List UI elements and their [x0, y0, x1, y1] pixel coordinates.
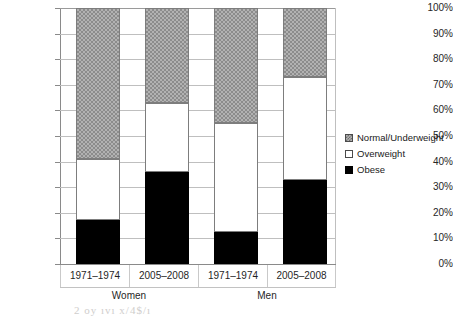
x-category-label: 2005–2008 [267, 265, 336, 287]
x-group-label-women: Women [60, 287, 198, 305]
bar-segment-obese[interactable] [283, 180, 327, 264]
y-tick-label: 10% [401, 233, 453, 243]
chart-legend: Normal/Underweight Overweight Obese [345, 130, 451, 178]
x-category-label: 2005–2008 [129, 265, 198, 287]
legend-item-overweight[interactable]: Overweight [345, 146, 451, 162]
x-category-label: 1971–1974 [198, 265, 267, 287]
y-tick-label: 100% [401, 3, 453, 13]
bar-segment-normal-underweight[interactable] [76, 8, 120, 159]
bar-segment-obese[interactable] [145, 172, 189, 264]
bar-segment-normal-underweight[interactable] [214, 8, 258, 123]
empty-square-swatch-icon [345, 150, 353, 158]
bar-segment-normal-underweight[interactable] [283, 8, 327, 77]
bar-segment-overweight[interactable] [76, 159, 120, 220]
legend-item-obese[interactable]: Obese [345, 162, 451, 178]
bar-men-2005-2008[interactable] [283, 8, 327, 264]
stacked-bar-chart: 100% 90% 80% 70% 60% 50% 40% 30% 20% 10%… [0, 0, 453, 318]
y-tick-label: 0% [401, 259, 453, 269]
y-tick-label: 90% [401, 29, 453, 39]
x-group-label-men: Men [198, 287, 336, 305]
x-axis-category-band: 1971–1974 2005–2008 1971–1974 2005–2008 [60, 265, 336, 288]
scan-bleedthrough-artifact: 2 oy ıvı x/4$/ı [74, 304, 196, 317]
plot-right-edge [335, 8, 336, 265]
bar-segment-obese[interactable] [214, 232, 258, 264]
y-tick-label: 80% [401, 54, 453, 64]
bar-women-2005-2008[interactable] [145, 8, 189, 264]
bar-men-1971-1974[interactable] [214, 8, 258, 264]
y-tick-label: 30% [401, 182, 453, 192]
x-axis-group-band: Women Men [60, 287, 336, 305]
filled-square-swatch-icon [345, 166, 353, 174]
bar-segment-overweight[interactable] [145, 103, 189, 172]
plot-area [60, 8, 335, 264]
bar-segment-obese[interactable] [76, 220, 120, 264]
bar-segment-normal-underweight[interactable] [145, 8, 189, 103]
x-category-label: 1971–1974 [60, 265, 129, 287]
y-tick-label: 70% [401, 80, 453, 90]
legend-label: Overweight [357, 149, 405, 159]
bar-segment-overweight[interactable] [214, 123, 258, 232]
legend-label: Obese [357, 165, 385, 175]
checkered-square-swatch-icon [345, 134, 353, 142]
y-tick-label: 60% [401, 105, 453, 115]
y-tick-label: 20% [401, 208, 453, 218]
bar-segment-overweight[interactable] [283, 77, 327, 179]
legend-item-normal-underweight[interactable]: Normal/Underweight [345, 130, 451, 146]
bar-women-1971-1974[interactable] [76, 8, 120, 264]
legend-label: Normal/Underweight [357, 133, 444, 143]
